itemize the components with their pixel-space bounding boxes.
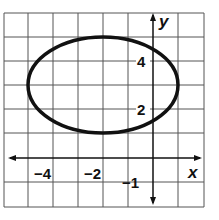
arrow-left-icon (8, 155, 16, 161)
y-axis-label: y (158, 12, 170, 31)
tick-label-y-neg1: −1 (122, 174, 139, 191)
arrow-right-icon (194, 155, 202, 161)
tick-label-y-4: 4 (137, 53, 146, 70)
tick-label-y-2: 2 (137, 101, 145, 118)
x-axis-label: x (187, 163, 199, 182)
arrow-up-icon (150, 13, 156, 21)
tick-label-x-neg2: −2 (84, 165, 101, 182)
arrow-down-icon (150, 197, 156, 205)
x-axis (8, 155, 202, 161)
tick-label-x-neg4: −4 (34, 165, 52, 182)
coordinate-plane: y x 4 2 −4 −2 −1 (0, 0, 219, 220)
